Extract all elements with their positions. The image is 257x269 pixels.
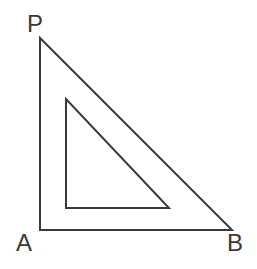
figure-canvas	[0, 0, 257, 269]
vertex-label-a: A	[16, 231, 32, 255]
vertex-label-b: B	[227, 231, 243, 255]
vertex-label-p: P	[27, 12, 43, 36]
figure-background	[0, 0, 257, 269]
geometry-figure: P A B	[0, 0, 257, 269]
